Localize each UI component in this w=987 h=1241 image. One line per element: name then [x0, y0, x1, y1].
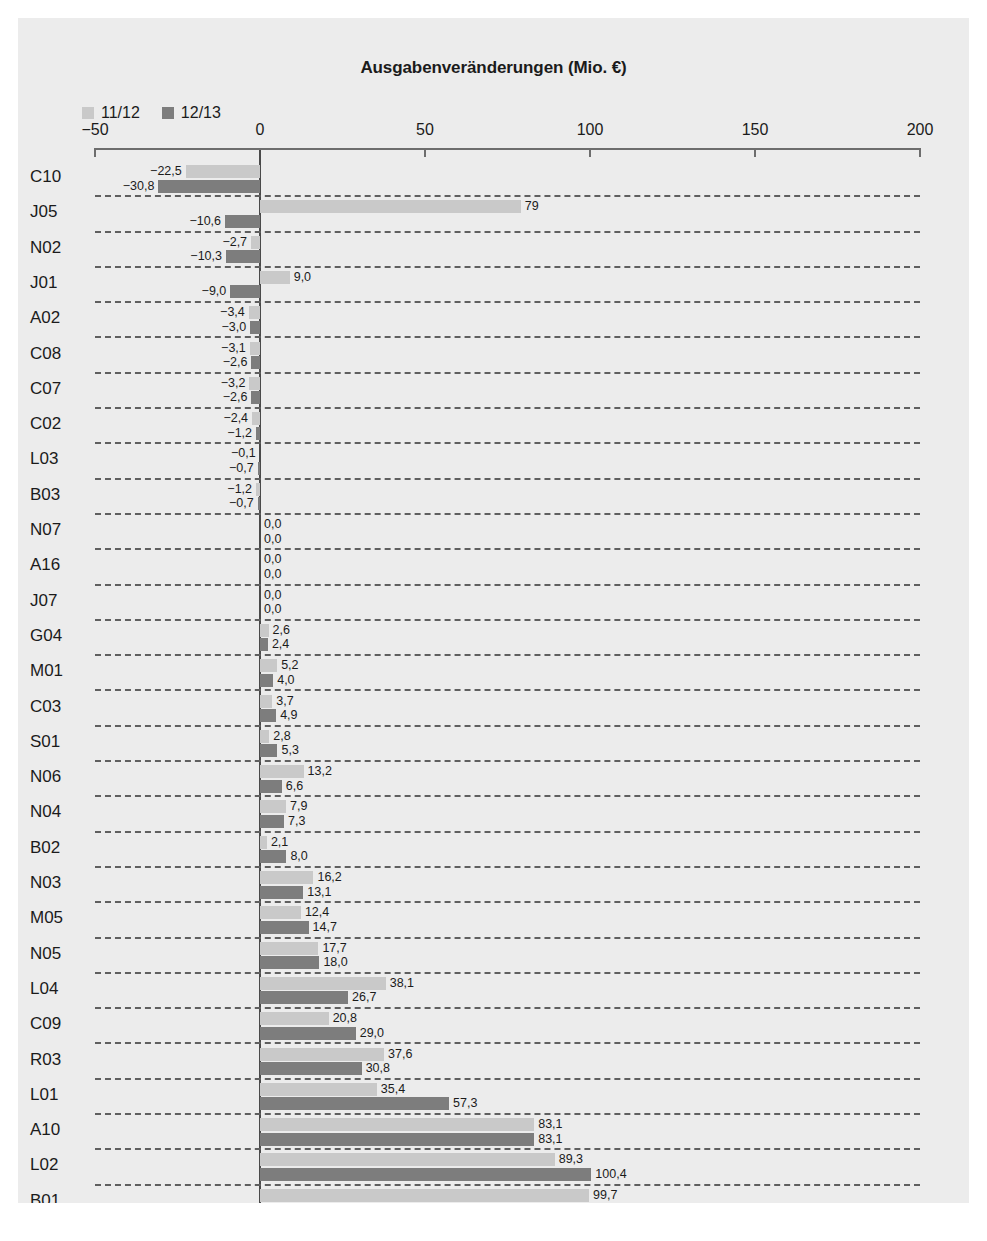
- bar-12-13[interactable]: [256, 427, 260, 440]
- bar-11-12[interactable]: [249, 377, 260, 390]
- bar-11-12[interactable]: [260, 977, 386, 990]
- bar-row: B0199,7151,6: [18, 1188, 969, 1203]
- bar-value-label: −3,2: [221, 377, 246, 390]
- category-label: J05: [30, 202, 92, 222]
- bar-12-13[interactable]: [260, 850, 286, 863]
- bar-value-label: −30,8: [123, 180, 155, 193]
- bar-value-label: 2,4: [272, 638, 289, 651]
- bar-12-13[interactable]: [260, 991, 348, 1004]
- bar-11-12[interactable]: [260, 271, 290, 284]
- bar-value-label: 16,2: [317, 871, 341, 884]
- bar-row: N02−2,7−10,3: [18, 235, 969, 270]
- bar-11-12[interactable]: [260, 765, 304, 778]
- bar-11-12[interactable]: [260, 1153, 555, 1166]
- bar-12-13[interactable]: [260, 886, 303, 899]
- bar-12-13[interactable]: [251, 391, 260, 404]
- bar-12-13[interactable]: [260, 1097, 449, 1110]
- bar-11-12[interactable]: [260, 730, 269, 743]
- bar-11-12[interactable]: [250, 342, 260, 355]
- bar-value-label: −1,2: [227, 483, 252, 496]
- row-separator: [95, 654, 920, 656]
- bar-12-13[interactable]: [258, 462, 260, 475]
- category-label: A16: [30, 555, 92, 575]
- row-separator: [95, 725, 920, 727]
- bar-12-13[interactable]: [260, 1062, 362, 1075]
- bar-11-12[interactable]: [260, 836, 267, 849]
- category-label: B03: [30, 485, 92, 505]
- row-separator: [95, 619, 920, 621]
- bar-12-13[interactable]: [260, 956, 319, 969]
- bar-value-label: −22,5: [150, 165, 182, 178]
- bar-12-13[interactable]: [260, 1168, 591, 1181]
- bar-row: N070,00,0: [18, 517, 969, 552]
- category-label: N05: [30, 944, 92, 964]
- bar-11-12[interactable]: [260, 659, 277, 672]
- bar-11-12[interactable]: [260, 942, 318, 955]
- bar-12-13[interactable]: [260, 780, 282, 793]
- bar-row: L0135,457,3: [18, 1082, 969, 1117]
- bar-row: L03−0,1−0,7: [18, 446, 969, 481]
- row-separator: [95, 689, 920, 691]
- bar-value-label: 26,7: [352, 991, 376, 1004]
- category-label: N02: [30, 238, 92, 258]
- bar-row: L0438,126,7: [18, 976, 969, 1011]
- bar-12-13[interactable]: [250, 321, 260, 334]
- row-separator: [95, 760, 920, 762]
- bar-value-label: −3,0: [221, 321, 246, 334]
- bar-12-13[interactable]: [251, 356, 260, 369]
- row-separator: [95, 795, 920, 797]
- bar-12-13[interactable]: [260, 815, 284, 828]
- bar-value-label: 20,8: [333, 1012, 357, 1025]
- bar-11-12[interactable]: [260, 624, 269, 637]
- bar-row: R0337,630,8: [18, 1047, 969, 1082]
- bar-12-13[interactable]: [260, 674, 273, 687]
- bar-11-12[interactable]: [251, 236, 260, 249]
- bar-11-12[interactable]: [256, 483, 260, 496]
- bar-11-12[interactable]: [260, 1118, 534, 1131]
- bar-value-label: 29,0: [360, 1027, 384, 1040]
- bar-11-12[interactable]: [260, 1048, 384, 1061]
- bar-12-13[interactable]: [258, 497, 260, 510]
- bar-11-12[interactable]: [260, 1012, 329, 1025]
- bar-12-13[interactable]: [260, 709, 276, 722]
- bar-12-13[interactable]: [158, 180, 260, 193]
- category-label: L01: [30, 1085, 92, 1105]
- bar-12-13[interactable]: [260, 921, 309, 934]
- row-separator: [95, 1113, 920, 1115]
- bar-12-13[interactable]: [225, 215, 260, 228]
- category-label: L03: [30, 449, 92, 469]
- bar-11-12[interactable]: [260, 1189, 589, 1202]
- bar-11-12[interactable]: [186, 165, 260, 178]
- bar-11-12[interactable]: [260, 200, 521, 213]
- bar-value-label: 0,0: [264, 568, 281, 581]
- row-separator: [95, 937, 920, 939]
- bar-value-label: −2,7: [222, 236, 247, 249]
- category-label: A02: [30, 308, 92, 328]
- bar-12-13[interactable]: [260, 1027, 356, 1040]
- category-label: B01: [30, 1191, 92, 1203]
- bar-value-label: 12,4: [305, 906, 329, 919]
- bar-value-label: 2,8: [273, 730, 290, 743]
- bar-11-12[interactable]: [249, 306, 260, 319]
- bar-value-label: −0,1: [231, 447, 256, 460]
- bar-12-13[interactable]: [226, 250, 260, 263]
- bar-row: M0512,414,7: [18, 905, 969, 940]
- bar-11-12[interactable]: [260, 1083, 377, 1096]
- bar-12-13[interactable]: [260, 638, 268, 651]
- bar-12-13[interactable]: [260, 744, 277, 757]
- bar-value-label: 18,0: [323, 956, 347, 969]
- bar-value-label: 7,9: [290, 800, 307, 813]
- bar-row: J0579−10,6: [18, 199, 969, 234]
- x-axis-line: [95, 148, 920, 150]
- bar-row: C10−22,5−30,8: [18, 164, 969, 199]
- category-label: J01: [30, 273, 92, 293]
- bar-11-12[interactable]: [260, 800, 286, 813]
- bar-12-13[interactable]: [230, 285, 260, 298]
- bar-11-12[interactable]: [260, 695, 272, 708]
- bar-11-12[interactable]: [252, 412, 260, 425]
- x-axis-tick-label: 100: [577, 121, 604, 139]
- bar-11-12[interactable]: [260, 906, 301, 919]
- bar-11-12[interactable]: [260, 871, 313, 884]
- category-label: C07: [30, 379, 92, 399]
- bar-12-13[interactable]: [260, 1133, 534, 1146]
